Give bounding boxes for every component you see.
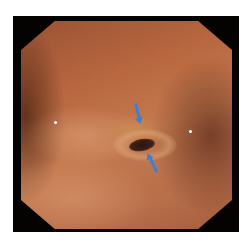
- endoscopic-field: [21, 21, 232, 229]
- endoscopy-frame: [13, 16, 239, 232]
- light-reflection: [189, 130, 192, 133]
- annotation-arrow-down: [134, 103, 141, 119]
- light-reflection: [54, 121, 57, 124]
